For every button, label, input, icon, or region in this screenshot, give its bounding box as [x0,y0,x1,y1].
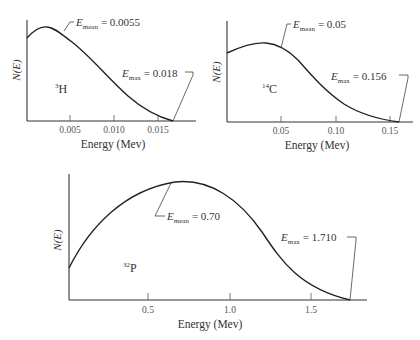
y-axis-label: N(E) [10,59,23,82]
chart-phosphorus32: 0.5 1.0 1.5 Energy (Mev) N(E) Emean= 0.7… [51,174,367,331]
x-tick-label: 0.15 [382,126,399,136]
mean-leader-line [64,22,74,31]
chart-tritium: 0.005 0.010 0.015 Energy (Mev) N(E) Emea… [10,16,196,151]
x-axis-label: Energy (Mev) [285,139,350,152]
mean-annotation: Emean= 0.0055 [75,16,141,31]
x-axis-label: Energy (Mev) [178,318,243,331]
isotope-label: 32P [123,261,137,275]
y-axis-label: N(E) [51,229,64,252]
mean-annotation: Emean= 0.70 [166,210,221,225]
x-axis-label: Energy (Mev) [81,138,146,151]
mean-annotation: Emean= 0.05 [292,18,347,33]
x-tick-label: 1.0 [224,305,236,315]
x-tick-label: 1.5 [305,305,317,315]
x-tick-label: 0.010 [103,125,125,135]
x-tick-label: 0.015 [147,125,169,135]
x-tick-label: 0.005 [59,125,81,135]
max-leader-line [347,237,356,300]
max-annotation: Emax= 0.018 [121,67,178,82]
x-tick-label: 0.05 [273,126,290,136]
x-tick-label: 0.10 [328,126,345,136]
y-axis-label: N(E) [210,61,223,84]
isotope-label: 14C [262,82,277,96]
chart-carbon14: 0.05 0.10 0.15 Energy (Mev) N(E) Emean= … [210,18,413,152]
max-leader-line [173,72,193,121]
max-leader-line [399,75,408,122]
max-annotation: Emax= 1.710 [280,231,337,246]
max-annotation: Emax= 0.156 [330,70,387,85]
x-tick-label: 0.5 [142,305,154,315]
isotope-label: 3H [55,82,68,96]
mean-leader-line [281,24,291,48]
spectrum-curve [227,43,399,122]
figure: 0.005 0.010 0.015 Energy (Mev) N(E) Emea… [0,0,420,340]
